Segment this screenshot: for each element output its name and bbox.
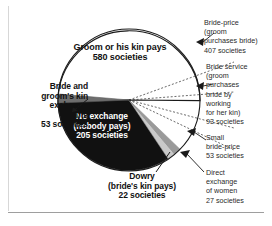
callout-bride-price-line1: Bride-price: [204, 18, 268, 27]
callout-bride-service-line5: working: [206, 99, 270, 108]
callout-bride-service-line7: 93 societies: [206, 117, 270, 126]
label-dowry: Dowry (bride's kin pays) 22 societies: [86, 172, 198, 201]
label-groom-line1: Groom or his kin pays: [60, 42, 180, 52]
callout-direct-exchange-line4: 27 societies: [206, 196, 270, 205]
callout-bride-service: Bride service (groom purchases bride by …: [206, 62, 270, 127]
callout-bride-service-line1: Bride service: [206, 62, 270, 71]
label-exchange-gifts: Bride and groom's kin exchange gifts 53 …: [6, 82, 88, 130]
callout-bride-service-line4: bride by: [206, 90, 270, 99]
chart-canvas: Groom or his kin pays 580 societies No e…: [0, 0, 272, 226]
callout-bride-service-line2: (groom: [206, 71, 270, 80]
callout-bride-service-line6: for her kin): [206, 108, 270, 117]
callout-small-bride-price-line2: bride-price: [206, 142, 270, 151]
label-dowry-line3: 22 societies: [86, 191, 198, 201]
callout-bride-price-line2: (groom: [204, 27, 268, 36]
label-no-exchange-line3: 205 societies: [61, 131, 143, 141]
label-groom-line2: 580 societies: [60, 52, 180, 62]
callout-small-bride-price-line1: Small: [206, 133, 270, 142]
callout-bride-price-line3: purchases bride): [204, 36, 268, 45]
callout-bride-service-line3: purchases: [206, 80, 270, 89]
callout-small-bride-price: Small bride-price 53 societies: [206, 133, 270, 161]
label-gifts-line5: 53 societies: [6, 120, 88, 130]
callout-small-bride-price-line3: 53 societies: [206, 151, 270, 160]
callout-direct-exchange-line1: Direct: [206, 168, 270, 177]
callout-direct-exchange-line3: of women: [206, 186, 270, 195]
callout-direct-exchange: Direct exchange of women 27 societies: [206, 168, 270, 205]
label-groom-or-his-kin-pays: Groom or his kin pays 580 societies: [60, 42, 180, 62]
callout-direct-exchange-line2: exchange: [206, 177, 270, 186]
callout-bride-price: Bride-price (groom purchases bride) 407 …: [204, 18, 268, 55]
callout-bride-price-line4: 407 societies: [204, 46, 268, 55]
